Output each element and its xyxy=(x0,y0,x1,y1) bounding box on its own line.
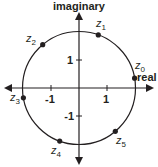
imaginary-axis-label: imaginary xyxy=(53,0,106,12)
x-tick-label-1: 1 xyxy=(103,93,109,105)
point-z2 xyxy=(40,42,45,47)
point-z3 xyxy=(21,95,26,100)
label-z4: z4 xyxy=(50,144,62,159)
y-tick-label-1: 1 xyxy=(67,54,73,66)
point-z4 xyxy=(57,139,62,144)
label-z2: z2 xyxy=(25,32,37,47)
label-z0: z0 xyxy=(134,59,146,74)
point-z0 xyxy=(132,76,137,81)
y-tick-label-neg1: -1 xyxy=(64,110,74,122)
complex-plane-diagram: imaginary real -1 1 1 -1 z0 z1 z2 z3 z4 … xyxy=(0,0,158,167)
point-z1 xyxy=(96,32,101,37)
label-z3: z3 xyxy=(9,91,21,106)
label-z1: z1 xyxy=(95,17,107,32)
x-tick-label-neg1: -1 xyxy=(45,93,55,105)
label-z5: z5 xyxy=(115,134,127,149)
